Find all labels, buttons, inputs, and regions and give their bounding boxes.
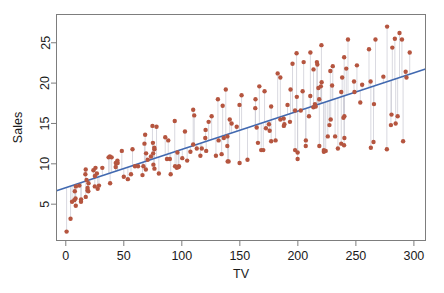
data-point <box>267 129 271 133</box>
data-point <box>228 117 232 121</box>
data-point <box>85 188 89 192</box>
data-point <box>219 152 223 156</box>
data-point <box>195 146 199 150</box>
data-point <box>328 69 332 73</box>
data-point <box>342 143 346 147</box>
data-point <box>144 167 148 171</box>
data-point <box>225 134 229 138</box>
data-point <box>188 150 192 154</box>
data-point <box>133 164 137 168</box>
data-point <box>74 204 78 208</box>
data-point <box>237 103 241 107</box>
data-point <box>220 104 224 108</box>
data-point <box>165 157 169 161</box>
data-point <box>100 166 104 170</box>
data-point <box>204 149 208 153</box>
x-tick-label: 300 <box>403 249 424 263</box>
data-point <box>404 75 408 79</box>
data-point <box>369 145 373 149</box>
data-point <box>203 128 207 132</box>
data-point <box>191 142 195 146</box>
data-point <box>389 123 393 127</box>
data-point <box>319 43 323 47</box>
data-point <box>339 90 343 94</box>
data-point <box>301 60 305 64</box>
data-point <box>304 144 308 148</box>
data-point <box>285 103 289 107</box>
data-point <box>371 140 375 144</box>
data-point <box>150 124 154 128</box>
data-point <box>408 50 412 54</box>
data-point <box>340 75 344 79</box>
x-tick-label: 50 <box>117 249 131 263</box>
data-point <box>319 80 323 84</box>
data-point <box>122 175 126 179</box>
data-point <box>113 165 117 169</box>
data-point <box>126 177 130 181</box>
data-point <box>262 89 266 93</box>
data-point <box>203 136 207 140</box>
x-tick-label: 250 <box>345 249 366 263</box>
data-point <box>300 89 304 93</box>
data-point <box>144 151 148 155</box>
y-tick-label: 10 <box>39 157 53 171</box>
x-tick-label: 0 <box>62 249 69 263</box>
y-axis-title: Sales <box>11 112 25 143</box>
data-point <box>93 184 97 188</box>
data-point <box>385 24 389 28</box>
data-point <box>151 141 155 145</box>
data-point <box>400 37 404 41</box>
data-point <box>269 139 273 143</box>
plot-canvas: 050100150200250300 510152025 TV Sales <box>0 0 444 293</box>
data-point <box>294 51 298 55</box>
data-point <box>327 123 331 127</box>
data-point <box>390 45 394 49</box>
data-point <box>129 172 133 176</box>
data-point <box>314 104 318 108</box>
data-point <box>253 106 257 110</box>
data-point <box>120 149 124 153</box>
data-point <box>151 162 155 166</box>
data-point <box>146 158 150 162</box>
data-point <box>254 125 258 129</box>
data-point <box>86 181 90 185</box>
data-point <box>245 158 249 162</box>
x-tick-label: 150 <box>229 249 250 263</box>
data-point <box>373 37 377 41</box>
data-point <box>256 141 260 145</box>
data-point <box>95 171 99 175</box>
data-point <box>264 126 268 130</box>
data-point <box>295 157 299 161</box>
data-point <box>173 119 177 123</box>
scatter-plot-figure: 050100150200250300 510152025 TV Sales <box>0 0 444 293</box>
y-tick-label: 15 <box>39 116 53 130</box>
data-point <box>273 138 277 142</box>
data-point <box>381 74 385 78</box>
data-point <box>143 133 147 137</box>
data-point <box>79 200 83 204</box>
data-point <box>278 75 282 79</box>
data-point <box>355 63 359 67</box>
data-point <box>282 122 286 126</box>
data-point <box>70 200 74 204</box>
data-point <box>308 50 312 54</box>
data-point <box>185 158 189 162</box>
data-point <box>225 144 229 148</box>
y-tick-label: 20 <box>39 76 53 90</box>
data-point <box>395 114 399 118</box>
data-point <box>344 66 348 70</box>
data-point <box>206 120 210 124</box>
data-point <box>73 196 77 200</box>
data-point <box>235 124 239 128</box>
data-point <box>393 121 397 125</box>
data-point <box>168 172 172 176</box>
data-point <box>328 117 332 121</box>
data-point <box>275 71 279 75</box>
data-point <box>288 120 292 124</box>
data-point <box>216 138 220 142</box>
data-point <box>403 70 407 74</box>
data-point <box>295 95 299 99</box>
data-point <box>311 67 315 71</box>
data-point <box>77 183 81 187</box>
x-axis-title: TV <box>233 267 250 281</box>
